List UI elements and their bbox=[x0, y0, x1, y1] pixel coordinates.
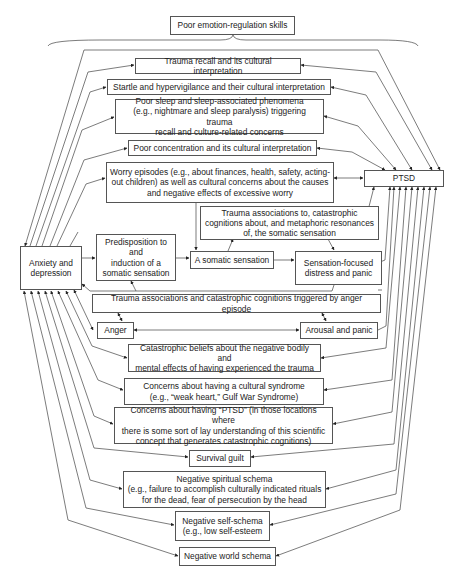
node-arousal-panic: Arousal and panic bbox=[300, 322, 378, 339]
node-catastrophic-beliefs: Catastrophic beliefs about the negative … bbox=[128, 344, 321, 372]
node-survival-guilt: Survival guilt bbox=[189, 450, 251, 467]
diagram-canvas: Poor emotion-regulation skills Trauma re… bbox=[0, 0, 452, 577]
node-poor-concentration: Poor concentration and its cultural inte… bbox=[128, 140, 317, 156]
node-trauma-associations-somatic: Trauma associations to, catastrophic cog… bbox=[200, 206, 379, 240]
node-ptsd: PTSD bbox=[364, 170, 444, 187]
node-worry-episodes: Worry episodes (e.g., about finances, he… bbox=[106, 162, 334, 203]
node-anxiety-depression: Anxiety and depression bbox=[20, 246, 82, 290]
node-predisposition: Predisposition to and induction of a som… bbox=[96, 234, 176, 281]
node-negative-world-schema: Negative world schema bbox=[179, 547, 276, 566]
node-sensation-focused-distress: Sensation-focused distress and panic bbox=[295, 251, 382, 285]
node-negative-spiritual-schema: Negative spiritual schema (e.g., failure… bbox=[123, 471, 326, 508]
node-somatic-sensation: A somatic sensation bbox=[190, 251, 274, 269]
node-poor-emotion-regulation: Poor emotion-regulation skills bbox=[170, 16, 295, 35]
node-concerns-ptsd: Concerns about having “PTSD” (in those l… bbox=[114, 407, 333, 444]
node-trauma-associations-anger: Trauma associations and catastrophic cog… bbox=[92, 294, 381, 313]
node-anger: Anger bbox=[97, 322, 134, 339]
node-startle-hypervigilance: Startle and hypervigilance and their cul… bbox=[107, 79, 331, 95]
node-cultural-syndrome: Concerns about having a cultural syndrom… bbox=[124, 378, 324, 405]
node-negative-self-schema: Negative self-schema (e.g., low self-est… bbox=[175, 511, 270, 541]
node-trauma-recall: Trauma recall and its cultural interpret… bbox=[135, 58, 301, 74]
node-poor-sleep: Poor sleep and sleep-associated phenomen… bbox=[115, 99, 324, 134]
